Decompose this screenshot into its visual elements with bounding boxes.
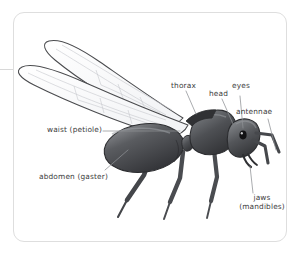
eye bbox=[239, 131, 246, 140]
leader-thorax bbox=[186, 91, 196, 114]
label-abdomen-gaster: abdomen (gaster) bbox=[39, 173, 108, 182]
label-jaws-mandibles: (mandibles) bbox=[233, 203, 291, 212]
label-antennae: antennae bbox=[236, 108, 272, 117]
label-thorax: thorax bbox=[171, 82, 196, 91]
label-waist-petiole: waist (petiole) bbox=[47, 126, 102, 135]
figure-stage: thorax head eyes antennae waist (petiole… bbox=[0, 0, 300, 257]
leg-front bbox=[207, 150, 217, 218]
label-eyes: eyes bbox=[232, 82, 250, 91]
label-head: head bbox=[209, 90, 228, 99]
head bbox=[227, 119, 260, 167]
leader-jaws bbox=[250, 166, 253, 193]
ant-anatomy-illustration bbox=[0, 0, 300, 257]
